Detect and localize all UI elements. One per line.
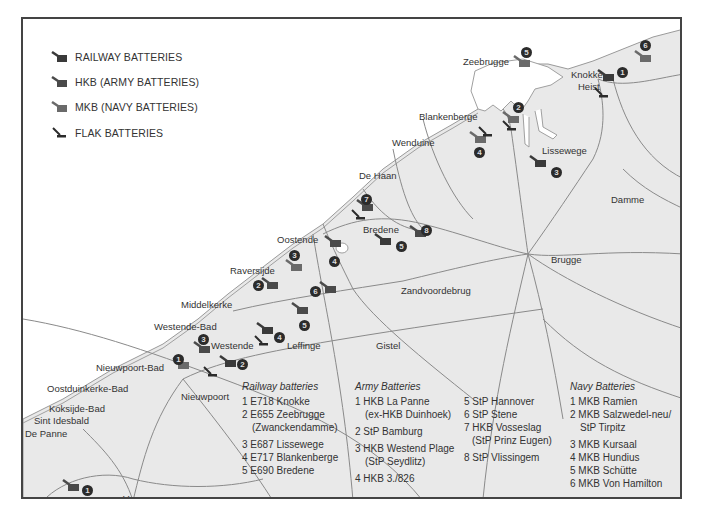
key-item: 5 StP Hannover (464, 395, 552, 408)
railway-battery-number: 3 (551, 167, 562, 178)
railway-battery-number: 2 (237, 359, 248, 370)
key-item: 4 HKB 3./826 (355, 472, 454, 485)
navy-battery-number: 3 (289, 250, 300, 261)
flak-battery-icon (502, 120, 516, 132)
place-label: Oostduinkerke-Bad (47, 383, 128, 394)
navy-battery-icon (51, 101, 67, 113)
key-heading: Railway batteries (242, 380, 338, 393)
railway-battery-icon (597, 69, 615, 82)
army-battery-number: 8 (421, 225, 432, 236)
army-battery-number: 4 (329, 256, 340, 267)
key-item: 1 MKB Ramien (570, 395, 671, 408)
legend-label: RAILWAY BATTERIES (75, 51, 182, 63)
place-label: Zeebrugge (463, 56, 509, 67)
place-label: Nieuwpoort-Bad (96, 362, 164, 373)
key-item: (ex-HKB Duinhoek) (355, 408, 454, 421)
place-label: Veurne (123, 493, 153, 499)
place-label: De Haan (359, 170, 397, 181)
railway-battery-number: 1 (617, 67, 628, 78)
army-battery-icon (62, 479, 80, 492)
key-item: 3 E687 Lissewege (242, 438, 338, 451)
flak-battery-icon (254, 335, 268, 347)
legend-label: HKB (ARMY BATTERIES) (75, 76, 199, 88)
flak-battery-icon (51, 127, 67, 139)
legend-item-railway: RAILWAY BATTERIES (51, 49, 182, 65)
key-item: 4 E717 Blankenberge (242, 451, 338, 464)
army-battery-icon (291, 302, 309, 315)
key-item: 3 MKB Kursaal (570, 438, 671, 451)
key-item: StP Tirpitz (570, 421, 671, 434)
navy-battery-number: 2 (513, 102, 524, 113)
railway-battery-icon (256, 322, 274, 335)
place-label: Gistel (376, 340, 400, 351)
legend-label: FLAK BATTERIES (75, 127, 163, 139)
key-item: 2 E655 Zeebrugge (242, 408, 338, 421)
key-item: 2 StP Bamburg (355, 425, 454, 438)
place-label: De Panne (25, 428, 67, 439)
key-railway: Railway batteries 1 E718 Knokke 2 E655 Z… (242, 380, 338, 477)
navy-battery-number: 1 (173, 354, 184, 365)
army-battery-number: 6 (310, 286, 321, 297)
navy-battery-number: 4 (474, 147, 485, 158)
key-army-continued: 5 StP Hannover 6 StP Stene 7 HKB Vossesl… (464, 395, 552, 464)
legend-item-navy: MKB (NAVY BATTERIES) (51, 99, 198, 115)
army-battery-number: 1 (82, 485, 93, 496)
place-label: Raversijde (230, 265, 275, 276)
army-battery-icon (319, 281, 337, 294)
flak-battery-icon (203, 366, 217, 378)
place-label: Leffinge (287, 340, 321, 351)
army-battery-number: 7 (361, 194, 372, 205)
place-label: Sint Idesbald (34, 415, 89, 426)
key-item: 6 StP Stene (464, 408, 552, 421)
legend-label: MKB (NAVY BATTERIES) (75, 101, 198, 113)
navy-battery-icon (634, 50, 652, 63)
railway-battery-icon (374, 233, 392, 246)
key-heading: Army Batteries (355, 380, 454, 393)
key-item: (Zwanckendamme) (242, 421, 338, 434)
railway-battery-icon (529, 155, 547, 168)
key-item: 6 MKB Von Hamilton (570, 477, 671, 490)
legend-item-army: HKB (ARMY BATTERIES) (51, 74, 199, 90)
place-label: Koksijde-Bad (49, 403, 105, 414)
key-heading: Navy Batteries (570, 380, 671, 393)
railway-battery-icon (51, 51, 67, 63)
flak-battery-icon (594, 87, 608, 99)
railway-battery-number: 5 (396, 241, 407, 252)
army-battery-number: 3 (198, 334, 209, 345)
place-label: Zandvoordebrug (401, 285, 471, 296)
key-item: 1 E718 Knokke (242, 395, 338, 408)
place-label: Lissewege (542, 145, 587, 156)
flak-battery-icon (351, 209, 365, 221)
place-label: Middelkerke (181, 299, 232, 310)
place-label: Damme (611, 194, 644, 205)
key-navy: Navy Batteries 1 MKB Ramien 2 MKB Salzwe… (570, 380, 671, 490)
key-item: 3 HKB Westend Plage (355, 442, 454, 455)
place-label: Brugge (551, 254, 582, 265)
key-item: 5 E690 Bredene (242, 464, 338, 477)
navy-battery-number: 5 (521, 47, 532, 58)
army-battery-icon (51, 76, 67, 88)
key-item: (StP Prinz Eugen) (464, 434, 552, 447)
place-label: Oostende (277, 234, 318, 245)
key-item: 8 StP Vlissingem (464, 451, 552, 464)
place-label: Westende (211, 340, 254, 351)
place-label: Blankenberge (419, 111, 478, 122)
place-label: Wenduine (392, 137, 435, 148)
key-item: 7 HKB Vosseslag (464, 421, 552, 434)
place-label: Westende-Bad (154, 321, 217, 332)
legend-item-flak: FLAK BATTERIES (51, 125, 163, 141)
key-army: Army Batteries 1 HKB La Panne (ex-HKB Du… (355, 380, 454, 485)
key-item: 1 HKB La Panne (355, 395, 454, 408)
place-label: Nieuwpoort (181, 391, 229, 402)
flak-battery-icon (478, 126, 492, 138)
army-battery-number: 2 (253, 280, 264, 291)
key-item: 5 MKB Schütte (570, 464, 671, 477)
navy-battery-number: 6 (640, 40, 651, 51)
key-item: 2 MKB Salzwedel-neu/ (570, 408, 671, 421)
army-battery-icon (324, 235, 342, 248)
railway-battery-number: 4 (274, 332, 285, 343)
key-item: 4 MKB Hundius (570, 451, 671, 464)
map-frame: RAILWAY BATTERIES HKB (ARMY BATTERIES) M… (21, 17, 682, 499)
railway-battery-icon (219, 355, 237, 368)
army-battery-number: 5 (299, 320, 310, 331)
